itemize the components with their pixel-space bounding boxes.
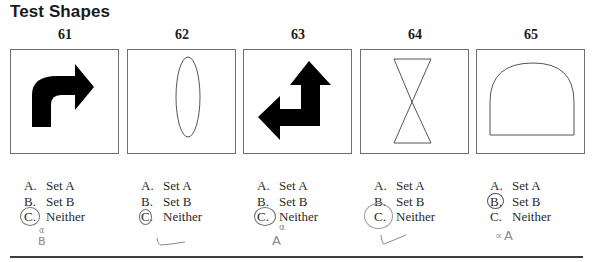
option-b[interactable]: B.Set B — [141, 194, 202, 210]
question-63: 63 A.Set A B.Set B C.Neither α A — [243, 0, 353, 262]
option-c[interactable]: C.Neither — [490, 209, 551, 225]
question-61: 61 A.Set A B.Set B C.Neither α B — [10, 0, 120, 262]
checkmark-icon — [378, 232, 410, 248]
answer-options: A.Set A B.Set B C.Neither — [490, 178, 551, 225]
checkmark-icon — [155, 236, 187, 248]
answer-options: A.Set A B.Set B C.Neither — [24, 178, 85, 225]
shape-box — [360, 49, 469, 154]
option-c[interactable]: C.Neither — [24, 209, 85, 225]
answer-circle — [20, 207, 40, 226]
option-c[interactable]: C.Neither — [257, 209, 318, 225]
handwritten-annotation: B — [38, 235, 46, 248]
option-a[interactable]: A.Set A — [257, 178, 318, 194]
option-a[interactable]: A.Set A — [24, 178, 85, 194]
option-b[interactable]: B.Set B — [490, 194, 551, 210]
question-number: 61 — [10, 27, 120, 43]
answer-options: A.Set A B.Set B C.Neither — [257, 178, 318, 225]
handwritten-annotation: A — [272, 233, 281, 248]
option-a[interactable]: A.Set A — [374, 178, 435, 194]
answer-circle — [364, 203, 393, 229]
question-62: 62 A.Set A B.Set B C.Neither — [127, 0, 237, 262]
question-64: 64 A.Set A B.Set B C.Neither — [360, 0, 470, 262]
answer-options: A.Set A B.Set B C.Neither — [141, 178, 202, 225]
question-number: 65 — [476, 27, 586, 43]
question-65: 65 A.Set A B.Set B C.Neither ∝ A — [476, 0, 586, 262]
option-a[interactable]: A.Set A — [490, 178, 551, 194]
question-number: 64 — [360, 27, 470, 43]
shape-box — [243, 49, 352, 154]
question-number: 63 — [243, 27, 353, 43]
shape-box — [10, 49, 119, 154]
question-number: 62 — [127, 27, 237, 43]
double-arrow-icon — [244, 50, 351, 153]
answer-options: A.Set A B.Set B C.Neither — [374, 178, 435, 225]
annotation-superscript: ∝ — [495, 230, 502, 241]
option-a[interactable]: A.Set A — [141, 178, 202, 194]
answer-circle — [254, 207, 276, 226]
option-c[interactable]: C.Neither — [374, 209, 435, 225]
curved-arrow-icon — [11, 50, 118, 153]
annotation-superscript: α — [279, 222, 285, 232]
bottom-divider — [10, 256, 583, 258]
answer-circle — [487, 193, 504, 209]
shape-box — [476, 49, 585, 154]
handwritten-annotation: A — [504, 228, 513, 243]
arch-icon — [477, 50, 584, 153]
shape-box — [127, 49, 236, 154]
ellipse-icon — [128, 50, 235, 153]
answer-circle — [139, 209, 152, 225]
annotation-superscript: α — [39, 226, 44, 235]
hourglass-icon — [361, 50, 468, 153]
option-c[interactable]: C.Neither — [141, 209, 202, 225]
